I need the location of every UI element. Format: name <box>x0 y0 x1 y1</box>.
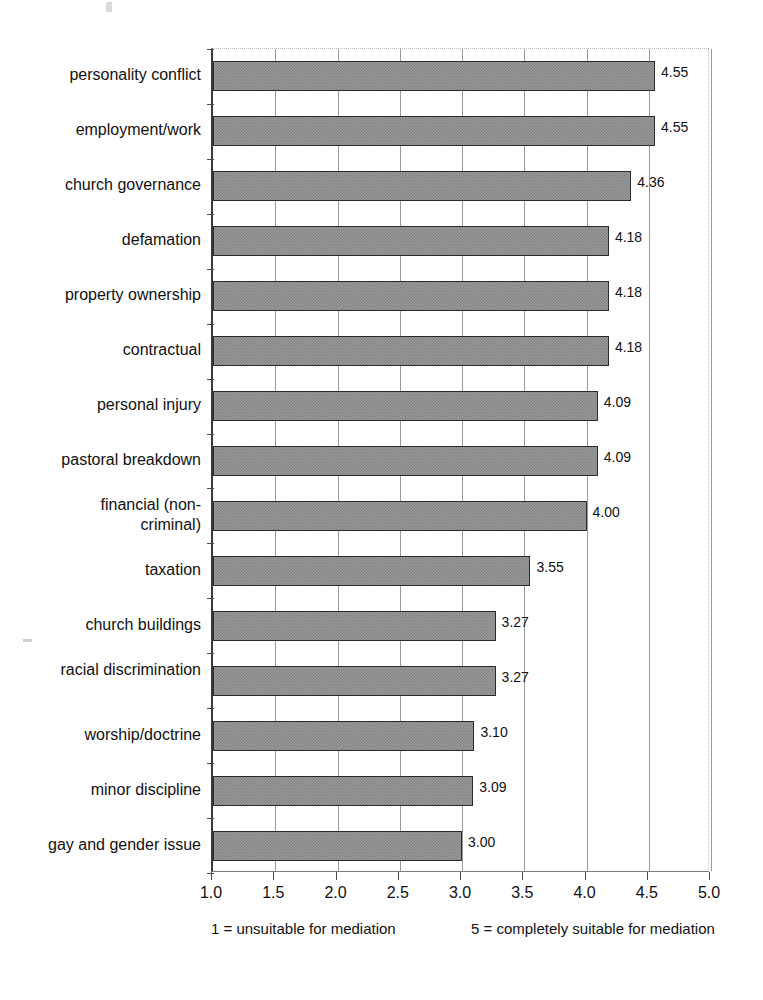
bar <box>213 391 598 421</box>
bar <box>213 776 473 806</box>
bar-value-label: 4.18 <box>615 340 642 354</box>
value-axis-tick <box>398 872 399 880</box>
scan-artifact-top <box>106 2 112 12</box>
gridline <box>711 49 712 871</box>
category-tick <box>207 434 214 435</box>
category-label: church governance <box>1 175 201 195</box>
value-axis-label: 3.0 <box>430 884 490 902</box>
bar-value-label: 3.27 <box>502 670 529 684</box>
bar-value-label: 3.10 <box>480 725 507 739</box>
category-label: church buildings <box>1 615 201 635</box>
category-tick <box>207 324 214 325</box>
bar-row: 4.00 <box>213 501 708 531</box>
value-axis-label: 1.0 <box>181 884 241 902</box>
bar-row: 4.18 <box>213 336 708 366</box>
category-label: minor discipline <box>1 780 201 800</box>
bar-row: 4.18 <box>213 226 708 256</box>
value-axis-label: 2.0 <box>306 884 366 902</box>
category-tick <box>207 214 214 215</box>
bar-row: 4.55 <box>213 116 708 146</box>
category-tick <box>207 598 214 599</box>
category-tick <box>207 543 214 544</box>
bar-row: 4.18 <box>213 281 708 311</box>
bar-row: 4.09 <box>213 391 708 421</box>
value-axis-label: 3.5 <box>492 884 552 902</box>
bar-value-label: 4.18 <box>615 285 642 299</box>
bar <box>213 556 530 586</box>
bar-value-label: 3.55 <box>536 560 563 574</box>
value-axis-label: 4.5 <box>617 884 677 902</box>
bar <box>213 226 609 256</box>
category-label: taxation <box>1 560 201 580</box>
value-axis-tick <box>585 872 586 880</box>
value-axis-label: 4.0 <box>555 884 615 902</box>
category-label: personal injury <box>1 395 201 415</box>
bar-row: 3.27 <box>213 611 708 641</box>
bar <box>213 171 631 201</box>
category-tick <box>207 763 214 764</box>
bar-row: 4.55 <box>213 61 708 91</box>
category-tick <box>207 159 214 160</box>
bar-row: 3.10 <box>213 721 708 751</box>
bar-value-label: 4.36 <box>637 175 664 189</box>
category-label: worship/doctrine <box>1 725 201 745</box>
value-axis-tick <box>273 872 274 880</box>
value-axis-label: 5.0 <box>679 884 739 902</box>
bar-chart: personality conflictemployment/workchurc… <box>0 0 763 1000</box>
bar-row: 4.09 <box>213 446 708 476</box>
value-axis-label: 1.5 <box>243 884 303 902</box>
bar-row: 3.55 <box>213 556 708 586</box>
bar <box>213 666 496 696</box>
bar-row: 3.27 <box>213 666 708 696</box>
category-tick <box>207 104 214 105</box>
bar <box>213 721 474 751</box>
category-tick <box>207 488 214 489</box>
bar-value-label: 3.27 <box>502 615 529 629</box>
bar <box>213 61 655 91</box>
category-label: pastoral breakdown <box>1 450 201 470</box>
bar-value-label: 4.09 <box>604 395 631 409</box>
category-label: financial (non-criminal) <box>41 495 201 535</box>
bar <box>213 831 462 861</box>
bar-row: 4.36 <box>213 171 708 201</box>
bar-value-label: 3.09 <box>479 780 506 794</box>
category-tick <box>207 708 214 709</box>
category-label: employment/work <box>1 120 201 140</box>
bar-value-label: 4.55 <box>661 120 688 134</box>
value-axis-tick <box>336 872 337 880</box>
bar-row: 3.00 <box>213 831 708 861</box>
bar <box>213 336 609 366</box>
value-axis-label: 2.5 <box>368 884 428 902</box>
bar-value-label: 4.00 <box>593 505 620 519</box>
category-tick <box>207 818 214 819</box>
category-label: defamation <box>1 230 201 250</box>
bar <box>213 116 655 146</box>
value-axis-tick <box>709 872 710 880</box>
bar <box>213 446 598 476</box>
axis-caption-right: 5 = completely suitable for mediation <box>471 920 715 938</box>
value-axis-tick <box>522 872 523 880</box>
bar-value-label: 4.09 <box>604 450 631 464</box>
plot-area: 4.554.554.364.184.184.184.094.094.003.55… <box>211 48 709 872</box>
category-label: racial discrimination <box>41 660 201 680</box>
bar-value-label: 4.18 <box>615 230 642 244</box>
bar <box>213 501 587 531</box>
value-axis-tick <box>647 872 648 880</box>
category-label: contractual <box>1 340 201 360</box>
bar <box>213 611 496 641</box>
category-label: property ownership <box>1 285 201 305</box>
category-tick <box>207 269 214 270</box>
category-axis-labels: personality conflictemployment/workchurc… <box>0 48 201 872</box>
bar-value-label: 4.55 <box>661 65 688 79</box>
axis-caption-left: 1 = unsuitable for mediation <box>211 920 396 938</box>
bar-value-label: 3.00 <box>468 835 495 849</box>
value-axis-tick <box>460 872 461 880</box>
bar-row: 3.09 <box>213 776 708 806</box>
category-tick <box>207 49 214 50</box>
category-label: personality conflict <box>1 65 201 85</box>
category-tick <box>207 379 214 380</box>
value-axis-tick <box>211 872 212 880</box>
bar <box>213 281 609 311</box>
category-label: gay and gender issue <box>1 835 201 855</box>
category-tick <box>207 653 214 654</box>
